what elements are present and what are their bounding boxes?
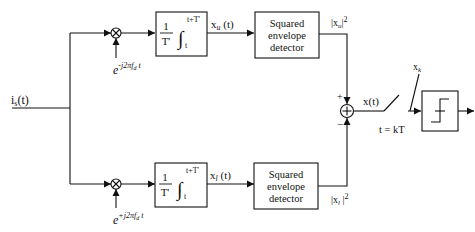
lower-oscillator-label: e+j2πfd t: [113, 211, 144, 227]
svg-text:envelope: envelope: [268, 30, 306, 41]
svg-text:t+T': t+T': [187, 15, 201, 24]
upper-mixer: [111, 28, 121, 38]
svg-text:t+T': t+T': [186, 166, 200, 175]
svg-text:t: t: [184, 192, 187, 201]
lower-detector-label: Squared envelope detector: [267, 169, 305, 204]
summer-output-label: x(t): [363, 95, 379, 108]
svg-text:Squared: Squared: [270, 18, 305, 29]
svg-text:1: 1: [162, 171, 168, 183]
fsk-detector-block-diagram: is(t) e-j2πfd t e+j2πfd t 1 T' ∫ t+T' t …: [0, 0, 475, 232]
upper-to-summer: [319, 34, 347, 104]
summer: [341, 105, 354, 118]
svg-text:T': T': [161, 186, 170, 198]
upper-integrator-formula: 1 T' ∫ t+T' t: [160, 15, 201, 51]
svg-text:detector: detector: [269, 193, 303, 204]
lower-detector-output-label: |xl |2: [331, 192, 348, 207]
integral-sign: ∫: [176, 27, 185, 51]
minus-sign: −: [337, 118, 343, 130]
svg-text:1: 1: [163, 20, 169, 32]
sampler-label: t = kT: [379, 124, 405, 135]
upper-detector-label: Squared envelope detector: [268, 18, 306, 53]
svg-text:envelope: envelope: [267, 181, 305, 192]
lower-integrator-output-label: xl (t): [210, 169, 231, 183]
sampler-switch: [384, 95, 399, 111]
svg-text:Squared: Squared: [269, 169, 304, 180]
sample-pointer: [410, 74, 419, 111]
input-label: is(t): [11, 93, 29, 108]
upper-oscillator-label: e-j2πfd t: [113, 61, 141, 77]
plus-sign: +: [337, 91, 343, 102]
svg-text:T': T': [162, 35, 171, 47]
svg-text:detector: detector: [270, 42, 304, 53]
integral-sign: ∫: [175, 178, 184, 202]
svg-text:t: t: [185, 41, 188, 50]
sample-label: xk: [413, 61, 422, 74]
lower-integrator-formula: 1 T' ∫ t+T' t: [159, 166, 200, 202]
upper-detector-output-label: |xu|2: [331, 15, 348, 30]
lower-mixer: [111, 179, 121, 189]
upper-integrator-output-label: xu (t): [211, 18, 234, 32]
